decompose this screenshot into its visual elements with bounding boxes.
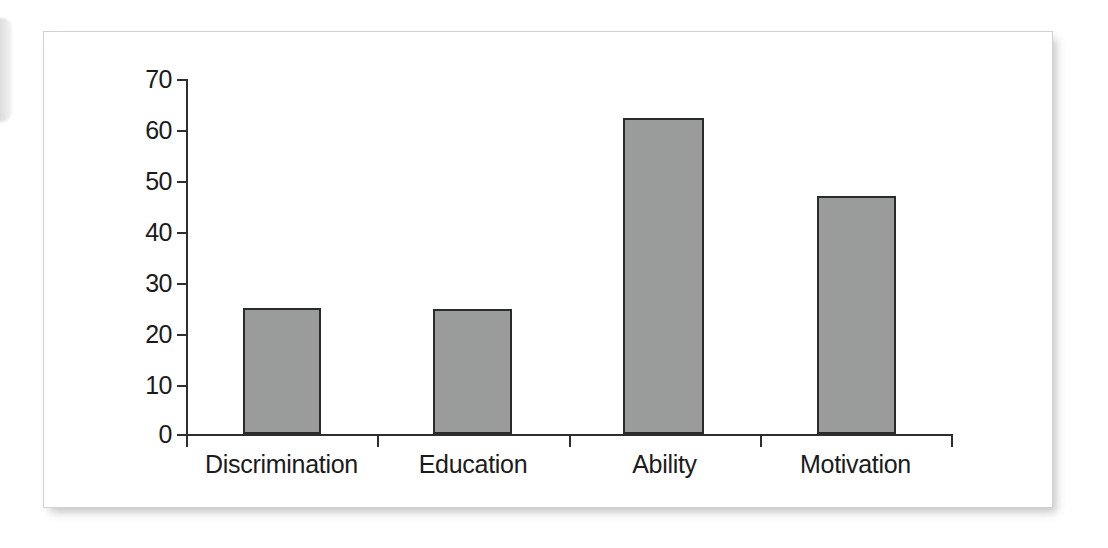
x-axis-label-ability: Ability [569,452,760,477]
y-axis-tick-60 [177,130,187,132]
y-axis-tick-label-10: 10 [118,373,172,398]
y-axis-tick-label-20: 20 [118,322,172,347]
y-axis-tick-30 [177,283,187,285]
y-axis-tick-70 [177,79,187,81]
x-axis-label-motivation: Motivation [760,452,951,477]
bar-education[interactable] [433,309,512,434]
y-axis-tick-label-60: 60 [118,118,172,143]
x-axis-tick-end [951,435,953,447]
y-axis-tick-label-30: 30 [118,271,172,296]
y-axis-tick-label-40: 40 [118,220,172,245]
bar-ability[interactable] [623,118,704,434]
y-axis-tick-label-70: 70 [118,67,172,92]
x-axis-label-discrimination: Discrimination [186,452,377,477]
y-axis-tick-40 [177,232,187,234]
y-axis-tick-50 [177,181,187,183]
y-axis-tick-labels: 70 60 50 40 30 20 10 0 [110,32,172,509]
x-axis-tick-div-3 [760,435,762,447]
x-axis-tick-start [186,435,188,447]
chart-panel: 70 60 50 40 30 20 10 0 Discrimination Ed… [43,31,1053,508]
x-axis-label-education: Education [377,452,569,477]
y-axis-tick-label-0: 0 [118,422,172,447]
x-axis-tick-div-2 [569,435,571,447]
bar-motivation[interactable] [817,196,896,434]
bar-chart-plot-area: 70 60 50 40 30 20 10 0 Discrimination Ed… [44,32,1054,509]
bar-discrimination[interactable] [243,308,321,434]
y-axis-tick-label-50: 50 [118,169,172,194]
page-edge-artifact [0,18,12,122]
y-axis-tick-10 [177,385,187,387]
y-axis-line [186,79,188,435]
x-axis-tick-div-1 [377,435,379,447]
y-axis-tick-20 [177,334,187,336]
